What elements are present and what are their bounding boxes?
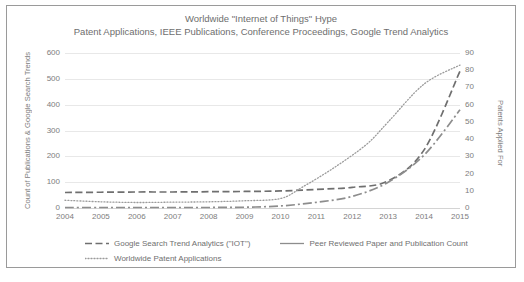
y-axis-right-tick-label: 60	[465, 100, 474, 109]
y-axis-right-tick-label: 0	[465, 203, 469, 212]
legend-label-google: Google Search Trend Analytics ("IOT")	[114, 239, 250, 248]
y-axis-right-tick-label: 30	[465, 151, 474, 160]
chart-legend: Google Search Trend Analytics ("IOT") Pe…	[85, 236, 505, 266]
y-axis-left-tick-label: 600	[47, 48, 60, 57]
legend-swatch-dashed-icon	[85, 240, 109, 247]
legend-row-1: Google Search Trend Analytics ("IOT") Pe…	[85, 236, 505, 251]
x-axis-tick-label: 2014	[415, 212, 433, 221]
y-axis-right-title: Patents Applied For	[494, 81, 506, 186]
y-axis-right-tick-label: 20	[465, 169, 474, 178]
y-axis-left-title: Count of Publications & Google Search Tr…	[21, 53, 33, 208]
plot-area: 0100200300400500600 0102030405060708090 …	[65, 53, 460, 208]
y-axis-left-tick-label: 100	[47, 177, 60, 186]
legend-swatch-solid-icon	[280, 240, 304, 247]
x-axis-tick-label: 2013	[379, 212, 397, 221]
x-axis-tick-label: 2010	[272, 212, 290, 221]
y-axis-left-tick-label: 0	[56, 203, 60, 212]
y-axis-right-tick-label: 70	[465, 82, 474, 91]
legend-row-2: Worldwide Patent Applications	[85, 251, 505, 266]
chart-title: Worldwide "Internet of Things" Hype	[7, 12, 515, 25]
legend-item-peer-reviewed[interactable]: Peer Reviewed Paper and Publication Coun…	[280, 239, 467, 248]
series-lines	[65, 53, 460, 208]
y-axis-right-tick-label: 40	[465, 134, 474, 143]
y-axis-right-tick-label: 50	[465, 117, 474, 126]
legend-swatch-dotted-icon	[85, 255, 109, 262]
x-axis-tick-label: 2009	[236, 212, 254, 221]
y-axis-right-tick-label: 90	[465, 48, 474, 57]
y-axis-left-tick-label: 500	[47, 74, 60, 83]
y-axis-left-tick-label: 200	[47, 151, 60, 160]
y-axis-right-tick-label: 10	[465, 186, 474, 195]
y-axis-left-tick-label: 400	[47, 100, 60, 109]
series-line	[65, 65, 460, 202]
chart-frame: Worldwide "Internet of Things" Hype Pate…	[6, 5, 516, 268]
legend-label-patents: Worldwide Patent Applications	[114, 254, 221, 263]
x-axis-tick-label: 2008	[200, 212, 218, 221]
x-axis-tick-label: 2011	[308, 212, 325, 221]
chart-subtitle: Patent Applications, IEEE Publications, …	[7, 25, 515, 38]
legend-item-patents[interactable]: Worldwide Patent Applications	[85, 254, 221, 263]
y-axis-right-tick-label: 80	[465, 65, 474, 74]
legend-item-google[interactable]: Google Search Trend Analytics ("IOT")	[85, 239, 250, 248]
x-axis-tick-label: 2004	[56, 212, 74, 221]
x-axis-tick-label: 2007	[164, 212, 182, 221]
legend-label-peer-reviewed: Peer Reviewed Paper and Publication Coun…	[309, 239, 467, 248]
x-axis-tick-label: 2012	[343, 212, 361, 221]
x-axis-tick-label: 2005	[92, 212, 110, 221]
x-axis-tick-label: 2006	[128, 212, 146, 221]
title-block: Worldwide "Internet of Things" Hype Pate…	[7, 12, 515, 38]
y-axis-left-tick-label: 300	[47, 126, 60, 135]
x-axis-tick-label: 2015	[451, 212, 469, 221]
